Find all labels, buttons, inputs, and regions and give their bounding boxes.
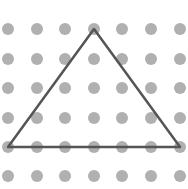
- grid-dot: [145, 82, 157, 94]
- grid-dot: [59, 170, 71, 182]
- grid-dot: [145, 170, 157, 182]
- grid-dot: [88, 53, 100, 65]
- grid-dot: [88, 170, 100, 182]
- grid-dot: [174, 82, 186, 94]
- grid-dot: [145, 53, 157, 65]
- grid-dot: [2, 112, 14, 124]
- grid-dot: [2, 53, 14, 65]
- dot-grid-diagram: [0, 0, 188, 189]
- grid-dot: [31, 53, 43, 65]
- grid-dot: [2, 82, 14, 94]
- grid-dot: [31, 23, 43, 35]
- grid-dot: [174, 112, 186, 124]
- grid-dot: [174, 170, 186, 182]
- grid-dot: [88, 112, 100, 124]
- diagram-svg: [0, 0, 188, 189]
- grid-dot: [174, 23, 186, 35]
- grid-dot: [59, 112, 71, 124]
- grid-dot: [88, 82, 100, 94]
- grid-dot: [59, 23, 71, 35]
- dot-grid: [2, 23, 186, 182]
- grid-dot: [116, 82, 128, 94]
- grid-dot: [174, 53, 186, 65]
- grid-dot: [116, 23, 128, 35]
- grid-dot: [2, 23, 14, 35]
- grid-dot: [2, 170, 14, 182]
- grid-dot: [116, 170, 128, 182]
- grid-dot: [116, 112, 128, 124]
- grid-dot: [59, 82, 71, 94]
- grid-dot: [31, 82, 43, 94]
- grid-dot: [31, 170, 43, 182]
- grid-dot: [145, 23, 157, 35]
